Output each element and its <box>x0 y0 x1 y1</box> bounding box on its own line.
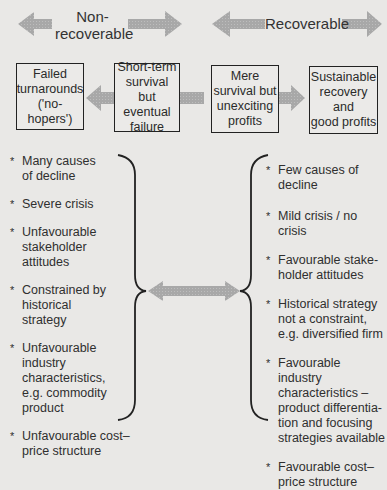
box-short-term-survival: Short-term survival but eventual failure <box>114 63 180 132</box>
list-item: Historical strategy not a constraint, e.… <box>264 297 387 342</box>
recoverable-label: Recoverable <box>265 15 345 32</box>
left-factor-list: Many causes of decline Severe crisis Unf… <box>8 154 133 459</box>
list-item: Favourable cost– price structure <box>264 460 387 490</box>
list-item: Favourable stake- holder attitudes <box>264 253 387 283</box>
list-item: Severe crisis <box>8 197 133 212</box>
middle-double-arrow-icon <box>148 281 240 301</box>
box-mere-survival: Mere survival but unexciting profits <box>211 65 279 133</box>
list-item: Constrained by historical strategy <box>8 283 133 328</box>
box-sustainable-recovery: Sustainable recovery and good profits <box>309 66 378 134</box>
list-item: Unfavourable industry characteristics, e… <box>8 341 133 416</box>
non-recoverable-label: Non- recoverable <box>55 8 130 42</box>
list-item: Few causes of decline <box>264 163 387 193</box>
list-item: Favourable industry characteristics – pr… <box>264 356 387 446</box>
list-item: Unfavourable stakeholder attitudes <box>8 225 133 270</box>
right-factor-list: Few causes of decline Mild crisis / no c… <box>264 163 387 490</box>
list-item: Unfavourable cost– price structure <box>8 429 133 459</box>
list-item: Mild crisis / no crisis <box>264 209 387 239</box>
list-item: Many causes of decline <box>8 154 133 184</box>
box-failed-turnarounds: Failed turnarounds ('no-hopers') <box>16 63 84 130</box>
